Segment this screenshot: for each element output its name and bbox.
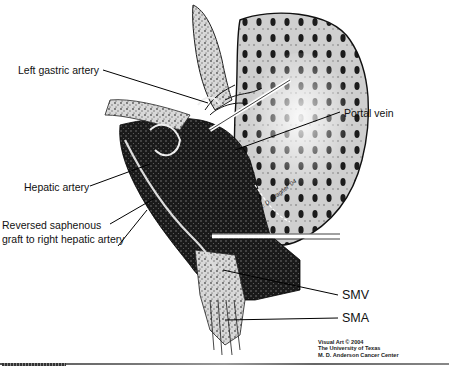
- label-left-gastric-artery: Left gastric artery: [18, 64, 99, 76]
- label-sma: SMA: [342, 312, 369, 324]
- label-smv: SMV: [342, 289, 369, 301]
- label-portal-vein: Portal vein: [344, 107, 394, 119]
- copyright-credit: Visual Art © 2004 The University of Texa…: [318, 339, 399, 358]
- scan-artifact-strip: [2, 363, 66, 366]
- label-reversed-saphenous-line1: Reversed saphenous: [2, 219, 101, 231]
- credit-line-3: M. D. Anderson Cancer Center: [318, 352, 399, 358]
- bottom-rule: [0, 363, 449, 365]
- label-reversed-saphenous-line2: graft to right hepatic artery: [2, 233, 125, 245]
- label-hepatic-artery: Hepatic artery: [24, 181, 89, 193]
- stomach: [193, 5, 232, 110]
